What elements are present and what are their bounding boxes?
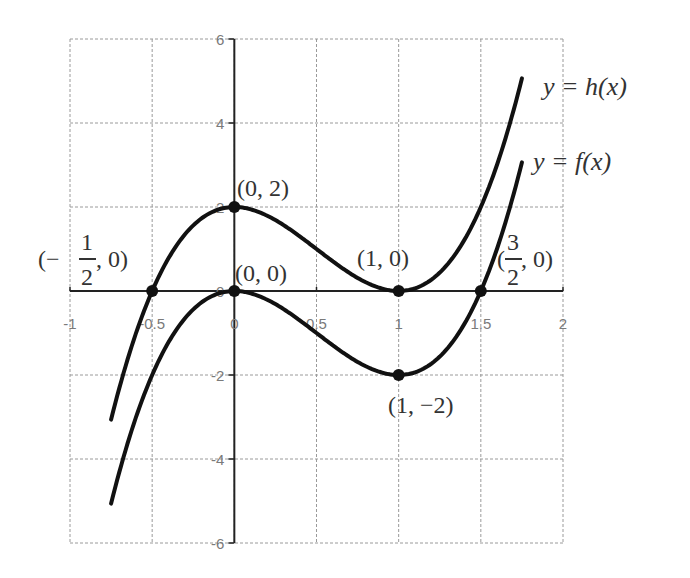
label-close: , 0) <box>96 246 128 272</box>
fraction-denominator: 2 <box>507 264 519 290</box>
point-label-three-halves-0: ( 3 2 , 0) <box>497 229 553 290</box>
point-marker <box>228 285 240 297</box>
h-curve-label: y = h(x) <box>540 72 627 101</box>
point-marker <box>393 285 405 297</box>
f-curve-label: y = f(x) <box>530 147 611 176</box>
label-close: , 0) <box>521 246 553 272</box>
label-open-paren: ( <box>497 246 505 272</box>
fraction-denominator: 2 <box>81 264 93 290</box>
x-tick-label: 1.5 <box>470 315 491 332</box>
point-label-0-0: (0, 0) <box>235 260 287 286</box>
x-tick-label: 2 <box>559 315 567 332</box>
x-tick-label: -1 <box>63 315 76 332</box>
point-marker <box>228 201 240 213</box>
point-marker <box>146 285 158 297</box>
y-tick-label: -4 <box>211 451 224 468</box>
fraction-numerator: 3 <box>507 229 519 255</box>
point-label-1-neg2: (1, −2) <box>388 392 454 418</box>
cubic-functions-chart: -1-0.500.511.52-6-4-20246 y = h(x) y = f… <box>0 0 690 578</box>
y-tick-label: -2 <box>211 367 224 384</box>
y-tick-label: 6 <box>216 31 224 48</box>
f-curve <box>111 162 522 503</box>
x-tick-label: 1 <box>394 315 402 332</box>
fraction-numerator: 1 <box>81 229 93 255</box>
point-marker <box>393 369 405 381</box>
x-tick-label: 0 <box>230 315 238 332</box>
point-label-neg-half-0: (− 1 2 , 0) <box>38 229 128 290</box>
y-tick-label: -6 <box>211 535 224 552</box>
point-label-1-0: (1, 0) <box>357 245 409 271</box>
label-open-paren: (− <box>38 246 60 272</box>
y-tick-label: 4 <box>216 115 224 132</box>
point-marker <box>475 285 487 297</box>
point-label-0-2: (0, 2) <box>237 175 289 201</box>
